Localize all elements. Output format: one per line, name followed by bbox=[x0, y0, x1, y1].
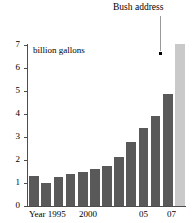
y-tick-4 bbox=[24, 114, 27, 115]
y-tick-label-1: 1 bbox=[8, 178, 20, 187]
bar-2007 bbox=[175, 44, 185, 206]
y-tick-6 bbox=[24, 68, 27, 69]
y-tick-0 bbox=[24, 206, 27, 207]
x-tick-label-05: 05 bbox=[139, 209, 148, 219]
bar-1995 bbox=[29, 176, 39, 206]
plot-area bbox=[28, 44, 186, 206]
y-tick-label-5: 5 bbox=[8, 86, 20, 95]
bar-1997 bbox=[54, 177, 64, 206]
y-tick-label-7: 7 bbox=[8, 40, 20, 49]
x-axis-line bbox=[27, 206, 186, 207]
annotation-label-bush-address: Bush address bbox=[113, 2, 163, 13]
bar-2003 bbox=[126, 142, 136, 206]
bar-2004 bbox=[139, 128, 149, 206]
x-tick-label-07: 07 bbox=[167, 209, 176, 219]
x-tick-label-2000: 2000 bbox=[79, 209, 97, 219]
bar-1998 bbox=[66, 174, 76, 206]
y-tick-5 bbox=[24, 91, 27, 92]
bar-chart: Bush address billion gallons 0 1 2 3 4 5… bbox=[0, 0, 192, 223]
y-tick-2 bbox=[24, 160, 27, 161]
bar-1996 bbox=[41, 183, 51, 206]
y-tick-label-0: 0 bbox=[8, 201, 20, 210]
bar-2002 bbox=[114, 157, 124, 206]
bar-2006 bbox=[163, 94, 173, 206]
x-tick-label-year-1995: Year 1995 bbox=[29, 209, 66, 219]
y-tick-1 bbox=[24, 183, 27, 184]
y-tick-label-4: 4 bbox=[8, 109, 20, 118]
y-tick-3 bbox=[24, 137, 27, 138]
bar-2001 bbox=[102, 166, 112, 207]
y-tick-label-2: 2 bbox=[8, 155, 20, 164]
bar-2000 bbox=[90, 169, 100, 206]
bar-1999 bbox=[78, 172, 88, 206]
y-tick-label-3: 3 bbox=[8, 132, 20, 141]
bar-2005 bbox=[151, 116, 161, 206]
y-tick-7 bbox=[24, 45, 27, 46]
y-tick-label-6: 6 bbox=[8, 63, 20, 72]
